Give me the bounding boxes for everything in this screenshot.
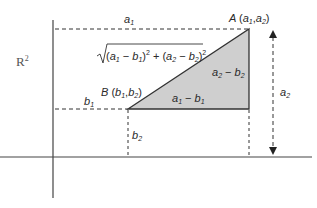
svg-text:(a1 − b1)2 + (a2 − b2)2: (a1 − b1)2 + (a2 − b2)2 bbox=[106, 49, 206, 63]
distance-diagram: R2 a1 A (a1,a2) (a1 − b1)2 + (a2 − b2)2 … bbox=[0, 0, 317, 208]
point-b-label: B (b1,b2) bbox=[101, 86, 142, 99]
point-a-label: A (a1,a2) bbox=[228, 12, 269, 25]
arrow-down-icon bbox=[269, 147, 277, 155]
hypotenuse-formula: (a1 − b1)2 + (a2 − b2)2 bbox=[97, 44, 206, 63]
label-a2: a2 bbox=[280, 86, 290, 99]
label-b2: b2 bbox=[132, 129, 142, 142]
space-label: R2 bbox=[16, 54, 29, 69]
arrow-up-icon bbox=[269, 30, 277, 38]
label-a1: a1 bbox=[124, 13, 134, 26]
label-vertical-leg: a2 − b2 bbox=[212, 66, 245, 79]
label-b1: b1 bbox=[84, 95, 94, 108]
label-horizontal-leg: a1 − b1 bbox=[172, 92, 205, 105]
